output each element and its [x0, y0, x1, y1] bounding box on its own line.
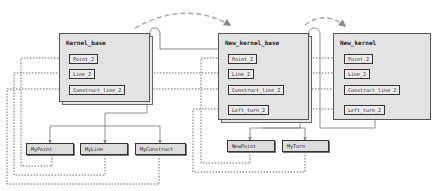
leaf-my-construct: MyConstruct	[135, 143, 186, 155]
new-kernel-title: New_kernel	[340, 39, 376, 46]
kernel-base-box: Kernel_base Point_2 Line_2 Construct_lin…	[59, 33, 150, 102]
kernel-base-title: Kernel_base	[66, 39, 106, 46]
new-kernel-base-point-2: Point_2	[228, 54, 257, 64]
new-kernel-construct-line-2: Construct_line_2	[344, 85, 400, 95]
new-kernel-base-left-turn-2: Left_turn_2	[228, 105, 269, 115]
leaf-my-point: MyPoint	[26, 143, 74, 155]
new-kernel-line-2: Line_2	[344, 69, 370, 79]
new-kernel-box: New_kernel Point_2 Line_2 Construct_line…	[333, 33, 431, 120]
leaf-my-turn: MyTurn	[282, 140, 329, 152]
new-kernel-base-title: New_kernel_base	[225, 39, 279, 46]
new-kernel-base-line-2: Line_2	[228, 69, 254, 79]
kernel-inheritance-diagram: Kernel_base Point_2 Line_2 Construct_lin…	[0, 0, 435, 191]
leaf-new-point: NewPoint	[227, 140, 275, 152]
new-kernel-left-turn-2: Left_turn_2	[344, 105, 385, 115]
new-kernel-base-box: New_kernel_base Point_2 Line_2 Construct…	[218, 33, 309, 120]
kernel-base-point-2: Point_2	[69, 54, 98, 64]
leaf-my-line: MyLine	[80, 143, 128, 155]
new-kernel-base-construct-line-2: Construct_line_2	[228, 85, 284, 95]
kernel-base-construct-line-2: Construct_line_2	[69, 85, 125, 95]
new-kernel-point-2: Point_2	[344, 54, 373, 64]
kernel-base-line-2: Line_2	[69, 69, 95, 79]
